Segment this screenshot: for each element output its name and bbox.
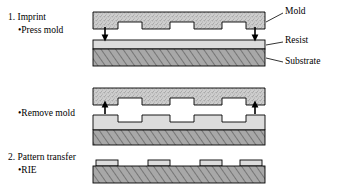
resist-pad-4 bbox=[240, 160, 262, 166]
mold-body-panel1 bbox=[93, 12, 265, 29]
panel-remove-mold bbox=[93, 88, 265, 145]
step-1-heading: 1. Imprint bbox=[8, 12, 46, 23]
step-remove-mold-bullet: •Remove mold bbox=[18, 108, 75, 119]
step-1-bullet-press-mold: •Press mold bbox=[18, 25, 63, 36]
substrate-layer-panel3 bbox=[93, 166, 265, 183]
resist-layer-panel2 bbox=[93, 115, 265, 130]
mold-body-panel2 bbox=[93, 88, 265, 105]
step-2-bullet-rie: •RIE bbox=[18, 165, 37, 176]
resist-pad-3 bbox=[200, 160, 222, 166]
leader-line-mold bbox=[266, 13, 283, 22]
panel-rie bbox=[93, 160, 265, 183]
panel-press-mold bbox=[93, 12, 283, 66]
leader-line-resist bbox=[266, 42, 283, 45]
substrate-layer-panel2 bbox=[93, 130, 265, 145]
substrate-layer-panel1 bbox=[93, 49, 265, 66]
step-2-heading: 2. Pattern transfer bbox=[8, 152, 76, 163]
callout-label-mold: Mold bbox=[285, 6, 306, 16]
leader-line-substrate bbox=[266, 58, 283, 62]
resist-pad-2 bbox=[148, 160, 170, 166]
figure-root: 1. Imprint •Press mold •Remove mold 2. P… bbox=[0, 0, 352, 194]
callout-label-resist: Resist bbox=[285, 35, 308, 45]
resist-layer-panel1 bbox=[93, 40, 265, 49]
callout-label-substrate: Substrate bbox=[285, 56, 320, 66]
resist-pad-1 bbox=[96, 160, 118, 166]
